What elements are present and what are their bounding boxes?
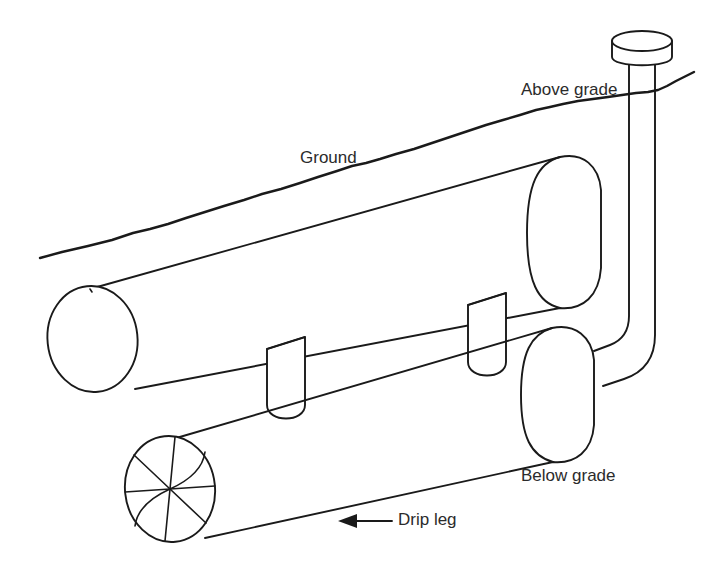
drip-leg-arrow [338, 514, 392, 528]
ground-line [40, 72, 694, 258]
upper-cylinder [42, 156, 601, 396]
label-below-grade: Below grade [521, 466, 616, 485]
label-ground: Ground [300, 148, 357, 167]
label-drip-leg: Drip leg [398, 510, 457, 529]
drip-leg-diagram: Above grade Ground Below grade Drip leg [0, 0, 727, 572]
riser-cap [612, 31, 672, 65]
label-above-grade: Above grade [521, 80, 617, 99]
support-leg-right [468, 293, 506, 376]
lower-cylinder [166, 327, 594, 538]
riser-pipe [594, 50, 655, 386]
drip-leg-end-cap [120, 432, 221, 547]
diagram-canvas: Above grade Ground Below grade Drip leg [0, 0, 727, 572]
